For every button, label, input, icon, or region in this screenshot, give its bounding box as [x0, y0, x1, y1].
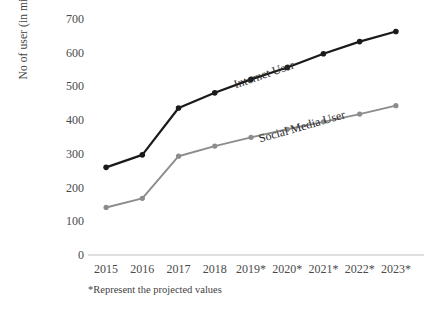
data-point-marker [104, 205, 109, 210]
y-tick-label: 600 [44, 47, 84, 59]
data-point-marker [393, 103, 398, 108]
data-point-marker [176, 105, 182, 111]
data-point-marker [248, 135, 253, 140]
line-chart: No of user (in millions) 010020030040050… [0, 0, 432, 311]
x-axis-tick-labels: 20152016201720182019*2020*2021*2022*2023… [88, 262, 424, 282]
series-line-social-media-user [106, 106, 396, 208]
footnote-projected-values: *Represent the projected values [88, 284, 222, 295]
series-line-internet-user [106, 31, 396, 167]
y-tick-label: 500 [44, 80, 84, 92]
y-tick-label: 300 [44, 148, 84, 160]
y-tick-label: 700 [44, 13, 84, 25]
data-point-marker [140, 152, 146, 158]
data-series-group [103, 29, 398, 210]
data-point-marker [176, 154, 181, 159]
data-point-marker [321, 51, 327, 57]
plot-svg [88, 8, 424, 260]
data-point-marker [357, 111, 362, 116]
data-point-marker [103, 165, 109, 171]
data-point-marker [357, 39, 363, 45]
y-tick-label: 100 [44, 215, 84, 227]
y-tick-label: 0 [44, 249, 84, 261]
data-point-marker [140, 196, 145, 201]
plot-area [88, 8, 424, 260]
x-tick-label: 2023* [366, 262, 426, 276]
y-tick-label: 400 [44, 114, 84, 126]
y-axis-title: No of user (in millions) [12, 0, 34, 104]
data-point-marker [212, 90, 218, 96]
y-tick-label: 200 [44, 182, 84, 194]
data-point-marker [212, 144, 217, 149]
data-point-marker [393, 29, 399, 35]
